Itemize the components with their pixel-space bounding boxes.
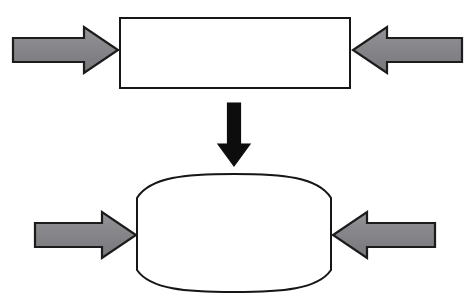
deformed-block-group [137, 174, 331, 292]
deformed-block-barrel-shape [137, 174, 331, 292]
compression-deformation-diagram [0, 0, 469, 305]
diagram-canvas [0, 0, 469, 305]
undeformed-block-rectangle [120, 18, 350, 88]
undeformed-block-group [120, 18, 350, 88]
